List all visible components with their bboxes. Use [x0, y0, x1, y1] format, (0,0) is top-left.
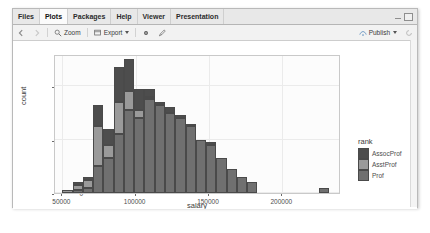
legend-label: AssocProf	[372, 150, 402, 157]
bar-segment	[144, 89, 154, 97]
tab-help[interactable]: Help	[111, 9, 137, 24]
histogram-bars	[55, 56, 339, 193]
vertical-scrollbar[interactable]	[410, 40, 417, 207]
legend-key	[358, 170, 369, 181]
zoom-button[interactable]: Zoom	[50, 26, 85, 39]
histogram-bar	[83, 177, 93, 193]
x-tick-label: 100000	[115, 198, 155, 205]
forward-arrow-icon	[33, 29, 41, 37]
bar-segment	[165, 113, 175, 193]
bar-segment	[206, 142, 216, 145]
histogram-bar	[144, 89, 154, 193]
remove-plot-button[interactable]	[138, 26, 154, 39]
histogram-bar	[73, 182, 83, 193]
tab-label: Files	[18, 13, 34, 20]
plots-toolbar: Zoom Export Publish	[13, 25, 417, 41]
bar-segment	[103, 158, 113, 193]
bar-segment	[73, 190, 83, 193]
bar-segment	[237, 177, 247, 193]
bar-segment	[186, 124, 196, 127]
bar-segment	[134, 110, 144, 118]
plots-pane-window: Files Plots Packages Help Viewer Present…	[12, 8, 418, 208]
bar-segment	[216, 158, 226, 193]
bar-segment	[83, 188, 93, 193]
pane-tabstrip: Files Plots Packages Help Viewer Present…	[13, 9, 417, 25]
histogram-bar	[165, 107, 175, 193]
minimize-icon[interactable]	[395, 15, 401, 19]
forward-button[interactable]	[29, 26, 45, 39]
histogram-bar	[93, 105, 103, 193]
bar-segment	[144, 97, 154, 100]
histogram-bar	[247, 182, 257, 193]
histogram-bar	[114, 67, 124, 193]
histogram-bar	[62, 190, 72, 193]
bar-segment	[155, 105, 165, 193]
legend-item: Prof	[358, 170, 402, 181]
chevron-down-icon[interactable]	[393, 31, 397, 34]
histogram-bar	[134, 89, 144, 193]
toolbar-separator	[87, 28, 88, 37]
tab-plots[interactable]: Plots	[40, 9, 68, 24]
tab-label: Help	[116, 13, 131, 20]
bar-segment	[114, 102, 124, 134]
plot-canvas: count salary 02040 500001000001500002000…	[13, 41, 417, 209]
bar-segment	[93, 105, 103, 126]
histogram-bar	[186, 124, 196, 194]
x-tick-label: 50000	[41, 198, 81, 205]
bar-segment	[134, 89, 144, 110]
histogram-bar	[237, 177, 247, 193]
magnifier-icon	[54, 29, 62, 37]
x-tick-mark	[208, 194, 209, 196]
bar-segment	[124, 91, 134, 110]
window-controls	[391, 9, 417, 24]
legend-label: Prof	[372, 172, 384, 179]
tab-presentation[interactable]: Presentation	[171, 9, 224, 24]
tab-files[interactable]: Files	[13, 9, 40, 24]
publish-button[interactable]: Publish	[355, 26, 401, 39]
maximize-icon[interactable]	[404, 13, 413, 21]
legend-title: rank	[358, 137, 402, 146]
bar-segment	[103, 129, 113, 145]
toolbar-separator	[47, 28, 48, 37]
bar-segment	[247, 182, 257, 193]
brush-icon	[158, 29, 166, 37]
back-button[interactable]	[13, 26, 29, 39]
bar-segment	[93, 126, 103, 166]
y-axis-label: count	[19, 87, 28, 105]
bar-segment	[124, 110, 134, 193]
refresh-button[interactable]	[401, 26, 417, 39]
tab-viewer[interactable]: Viewer	[138, 9, 171, 24]
legend-item: AssocProf	[358, 148, 402, 159]
clear-plots-button[interactable]	[154, 26, 170, 39]
histogram-bar	[103, 129, 113, 193]
bar-segment	[114, 67, 124, 102]
histogram-bar	[124, 59, 134, 193]
y-tick-mark	[52, 194, 54, 195]
histogram-bar	[206, 142, 216, 193]
histogram-bar	[196, 140, 206, 193]
bar-segment	[175, 118, 185, 193]
bar-segment	[319, 188, 329, 193]
zoom-label: Zoom	[64, 29, 81, 36]
plot-panel	[54, 55, 340, 194]
publish-icon	[359, 29, 367, 37]
x-tick-mark	[61, 194, 62, 196]
x-tick-label: 150000	[188, 198, 228, 205]
tabstrip-filler	[224, 9, 391, 24]
legend-label: AsstProf	[372, 161, 397, 168]
histogram-bar	[227, 169, 237, 193]
chevron-down-icon[interactable]	[125, 31, 129, 34]
bar-segment	[73, 182, 83, 185]
tab-label: Viewer	[143, 13, 165, 20]
histogram-bar	[319, 188, 329, 193]
legend-item: AsstProf	[358, 159, 402, 170]
histogram-bar	[175, 115, 185, 193]
bar-segment	[227, 169, 237, 193]
toolbar-separator	[135, 28, 136, 37]
bar-segment	[186, 126, 196, 193]
histogram-bar	[216, 158, 226, 193]
bar-segment	[73, 185, 83, 190]
x-tick-label: 200000	[261, 198, 301, 205]
export-button[interactable]: Export	[90, 26, 134, 39]
tab-packages[interactable]: Packages	[68, 9, 111, 24]
